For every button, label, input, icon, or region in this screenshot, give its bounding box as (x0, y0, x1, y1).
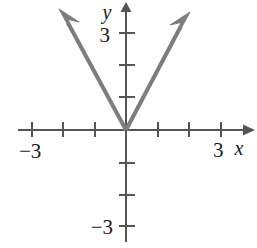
graph-figure: 3 −3 −3 3 y x (0, 0, 257, 248)
coordinate-plane-svg: 3 −3 −3 3 y x (0, 0, 257, 248)
curve-right-branch (126, 26, 181, 130)
curve-right-arrowhead (170, 12, 190, 34)
y-axis-label: y (101, 1, 112, 24)
y-axis-positive-tick-label: 3 (100, 23, 111, 47)
curve-left-branch (68, 23, 126, 130)
x-axis-negative-tick-label: −3 (19, 139, 41, 163)
y-axis-arrowhead (121, 2, 132, 12)
y-axis-negative-tick-label: −3 (91, 215, 113, 239)
x-axis-arrowhead (243, 125, 255, 136)
curve-left-arrowhead (59, 9, 79, 31)
x-axis-label: x (234, 137, 244, 159)
x-axis-positive-tick-label: 3 (213, 138, 224, 162)
